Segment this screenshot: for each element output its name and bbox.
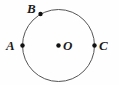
point-marker-c: [92, 43, 96, 47]
point-label-c: C: [99, 39, 108, 52]
point-marker-o: [56, 43, 60, 47]
point-label-b: B: [27, 2, 36, 15]
geometry-figure: A B C O: [0, 0, 119, 85]
point-marker-b: [38, 12, 42, 16]
point-label-a: A: [6, 39, 15, 52]
point-marker-a: [20, 43, 24, 47]
point-label-o: O: [63, 39, 72, 52]
